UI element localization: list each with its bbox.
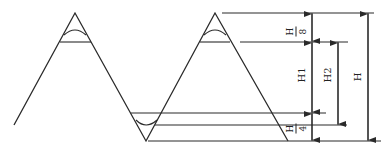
label-h2: H2 [323,67,333,82]
thread-profile-diagram: H 8 H 4 H1 H2 H [0,0,385,156]
fraction-bar [296,124,297,134]
label-h-over-8-denominator: 8 [298,29,308,35]
label-h: H [353,73,363,82]
label-h1: H1 [297,67,307,82]
root-rounding [136,120,157,125]
reference-lines [131,13,381,141]
label-h-over-4-denominator: 4 [298,126,308,132]
thread-profile [14,13,288,141]
fraction-bar [296,27,297,37]
label-h-over-8-numerator: H [285,28,295,36]
label-h-over-4-numerator: H [285,125,295,133]
label-h-over-8: H 8 [285,27,308,37]
label-h-over-4: H 4 [285,124,308,134]
